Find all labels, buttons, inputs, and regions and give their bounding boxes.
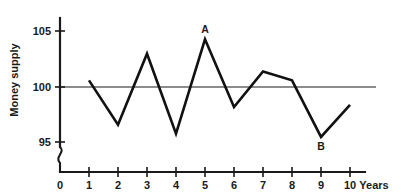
x-tick-label-2: 2	[115, 179, 121, 191]
y-tick-label-105: 105	[33, 25, 51, 37]
y-tick-label-100: 100	[33, 81, 51, 93]
x-tick-label-7: 7	[260, 179, 266, 191]
x-tick-label-3: 3	[144, 179, 150, 191]
x-tick-label-4: 4	[173, 179, 180, 191]
money-supply-chart: 105 100 95 0 1 2 3 4 5 6 7 8 9 10 Years …	[0, 0, 401, 194]
annotation-label-b: B	[317, 140, 325, 152]
y-tick-label-95: 95	[39, 136, 51, 148]
x-tick-label-6: 6	[231, 179, 237, 191]
y-axis-break-icon	[58, 147, 61, 172]
chart-canvas: 105 100 95 0 1 2 3 4 5 6 7 8 9 10 Years …	[0, 0, 401, 194]
x-tick-label-5: 5	[202, 179, 208, 191]
x-tick-label-1: 1	[86, 179, 92, 191]
x-tick-label-0: 0	[57, 179, 63, 191]
money-supply-series	[89, 39, 350, 137]
x-tick-label-8: 8	[289, 179, 295, 191]
annotation-label-a: A	[201, 23, 209, 35]
x-axis-title: Years	[359, 179, 388, 191]
y-axis-title: Money supply	[8, 42, 20, 116]
x-tick-label-9: 9	[318, 179, 324, 191]
x-tick-label-10: 10	[344, 179, 356, 191]
